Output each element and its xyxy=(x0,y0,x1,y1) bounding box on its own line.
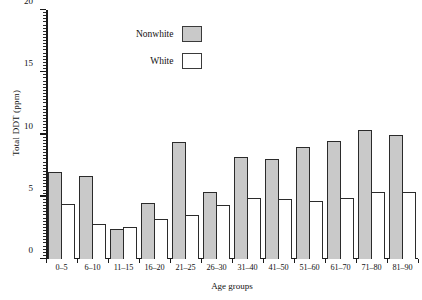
bar-group xyxy=(201,10,232,259)
bar-white-21-25 xyxy=(185,215,199,259)
bar-nonwhite-0-5 xyxy=(48,172,62,259)
bar-groups xyxy=(46,10,418,259)
x-tick-label: 6–10 xyxy=(77,263,108,272)
legend-label-nonwhite: Nonwhite xyxy=(136,29,173,39)
x-tick xyxy=(418,259,419,263)
y-tick-label-0: 0 xyxy=(29,246,34,255)
bar-white-26-30 xyxy=(216,205,230,259)
bar-white-41-50 xyxy=(278,199,292,259)
bar-group xyxy=(263,10,294,259)
x-axis-title: Age groups xyxy=(46,281,418,291)
bar-nonwhite-11-15 xyxy=(110,229,124,259)
x-tick-label: 0–5 xyxy=(46,263,77,272)
x-tick-label: 81–90 xyxy=(387,263,418,272)
bar-nonwhite-51-60 xyxy=(296,147,310,259)
bar-white-0-5 xyxy=(61,204,75,259)
x-tick-label: 61–70 xyxy=(325,263,356,272)
bar-white-6-10 xyxy=(92,224,106,259)
y-tick-label-10: 10 xyxy=(24,121,33,130)
x-tick xyxy=(232,259,233,263)
x-axis-tick-labels: 0–56–1011–1516–2021–2526–3031–4041–5051–… xyxy=(46,263,418,272)
legend-item-white: White xyxy=(136,53,202,69)
y-tick-label-15: 15 xyxy=(24,59,33,68)
bar-white-61-70 xyxy=(340,198,354,259)
bar-white-51-60 xyxy=(309,201,323,260)
x-tick xyxy=(263,259,264,263)
bar-nonwhite-26-30 xyxy=(203,192,217,259)
bar-white-16-20 xyxy=(154,219,168,259)
bar-group xyxy=(387,10,418,259)
x-tick-label: 11–15 xyxy=(108,263,139,272)
plot-area: 05101520 xyxy=(46,10,418,259)
bar-group xyxy=(77,10,108,259)
x-tick xyxy=(108,259,109,263)
x-tick xyxy=(201,259,202,263)
bar-white-71-80 xyxy=(371,192,385,259)
bar-group xyxy=(356,10,387,259)
x-tick-label: 16–20 xyxy=(139,263,170,272)
x-tick xyxy=(294,259,295,263)
x-tick xyxy=(170,259,171,263)
y-tick-label-20: 20 xyxy=(24,0,33,6)
x-tick xyxy=(139,259,140,263)
bar-nonwhite-71-80 xyxy=(358,130,372,259)
bar-nonwhite-61-70 xyxy=(327,141,341,259)
bar-white-31-40 xyxy=(247,198,261,259)
x-tick xyxy=(356,259,357,263)
bar-group xyxy=(294,10,325,259)
bar-nonwhite-16-20 xyxy=(141,203,155,259)
legend: Nonwhite White xyxy=(136,26,202,80)
y-tick-label-5: 5 xyxy=(29,183,34,192)
x-tick-label: 26–30 xyxy=(201,263,232,272)
x-tick-label: 31–40 xyxy=(232,263,263,272)
x-tick-label: 51–60 xyxy=(294,263,325,272)
bar-group xyxy=(108,10,139,259)
bar-nonwhite-21-25 xyxy=(172,142,186,259)
legend-label-white: White xyxy=(150,56,173,66)
x-tick-label: 41–50 xyxy=(263,263,294,272)
x-tick-label: 71–80 xyxy=(356,263,387,272)
legend-swatch-white xyxy=(182,53,202,69)
x-tick xyxy=(325,259,326,263)
legend-item-nonwhite: Nonwhite xyxy=(136,26,202,42)
x-tick-label: 21–25 xyxy=(170,263,201,272)
bar-nonwhite-41-50 xyxy=(265,159,279,259)
ddt-bar-chart: Total DDT (ppm) 05101520 0–56–1011–1516–… xyxy=(0,0,422,300)
bar-nonwhite-81-90 xyxy=(389,135,403,260)
bar-white-81-90 xyxy=(402,192,416,259)
bar-nonwhite-31-40 xyxy=(234,157,248,259)
legend-swatch-nonwhite xyxy=(182,26,202,42)
bar-group xyxy=(232,10,263,259)
x-tick xyxy=(46,259,47,263)
bar-white-11-15 xyxy=(123,227,137,259)
x-tick xyxy=(387,259,388,263)
y-axis-title: Total DDT (ppm) xyxy=(11,63,21,183)
bar-nonwhite-6-10 xyxy=(79,176,93,259)
bar-group xyxy=(46,10,77,259)
x-tick xyxy=(77,259,78,263)
bar-group xyxy=(325,10,356,259)
